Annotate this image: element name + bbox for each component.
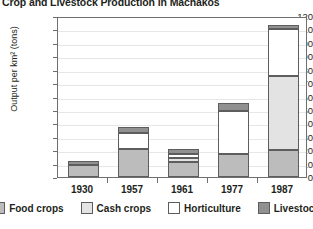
- x-tick-mark: [207, 178, 208, 183]
- bar-segment-horticulture[interactable]: [268, 29, 299, 76]
- legend-swatch: [258, 202, 270, 214]
- bar-1957[interactable]: [118, 17, 149, 177]
- bar-1961[interactable]: [168, 17, 199, 177]
- legend-item-livestock[interactable]: Livestock: [258, 202, 313, 214]
- x-tick-label: 1987: [257, 184, 307, 195]
- bar-segment-food-crops[interactable]: [168, 162, 199, 177]
- bar-segment-cash-crops[interactable]: [268, 76, 299, 150]
- x-tick-mark: [157, 178, 158, 183]
- legend-label: Cash crops: [97, 203, 151, 214]
- legend-swatch: [81, 202, 93, 214]
- bar-1987[interactable]: [268, 17, 299, 177]
- bar-segment-horticulture[interactable]: [118, 133, 149, 149]
- bar-segment-livestock[interactable]: [168, 149, 199, 154]
- bar-segment-food-crops[interactable]: [218, 154, 249, 177]
- plot-area: [57, 17, 307, 178]
- x-tick-label: 1977: [207, 184, 257, 195]
- bar-segment-food-crops[interactable]: [68, 165, 99, 177]
- x-tick-mark: [107, 178, 108, 183]
- x-tick-label: 1930: [57, 184, 107, 195]
- chart-title: Crop and Livestock Production in Machako…: [2, 0, 220, 8]
- bar-segment-livestock[interactable]: [268, 25, 299, 29]
- legend-item-cash-crops[interactable]: Cash crops: [81, 202, 151, 214]
- chart-container: Crop and Livestock Production in Machako…: [0, 0, 313, 229]
- legend-label: Food crops: [9, 203, 63, 214]
- x-tick-label: 1957: [107, 184, 157, 195]
- legend-item-horticulture[interactable]: Horticulture: [168, 202, 241, 214]
- bar-segment-food-crops[interactable]: [268, 150, 299, 177]
- bar-segment-food-crops[interactable]: [118, 149, 149, 177]
- legend-item-food-crops[interactable]: Food crops: [0, 202, 64, 214]
- legend-label: Horticulture: [184, 203, 241, 214]
- x-tick-label: 1961: [157, 184, 207, 195]
- bar-1977[interactable]: [218, 17, 249, 177]
- bar-segment-horticulture[interactable]: [218, 111, 249, 154]
- legend-swatch: [168, 202, 180, 214]
- y-tick-mark: [53, 178, 57, 179]
- legend-label: Livestock: [274, 203, 313, 214]
- bar-segment-livestock[interactable]: [68, 161, 99, 165]
- bar-1930[interactable]: [68, 17, 99, 177]
- y-axis-title: Output per km² (tons): [9, 0, 19, 139]
- bar-segment-cash-crops[interactable]: [168, 158, 199, 162]
- bar-segment-livestock[interactable]: [118, 127, 149, 132]
- legend-swatch: [0, 202, 5, 214]
- chart-legend: Food cropsCash cropsHorticultureLivestoc…: [0, 202, 313, 214]
- bar-segment-horticulture[interactable]: [168, 154, 199, 158]
- bar-segment-livestock[interactable]: [218, 103, 249, 111]
- x-tick-mark: [257, 178, 258, 183]
